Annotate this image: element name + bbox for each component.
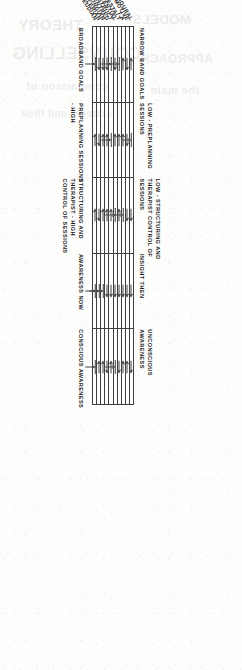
comparison-matrix-figure: NARROW BAND GOALSLOW - PREPLANNING SESSI… bbox=[5, 14, 237, 656]
row-labels: BEHAVIOURALRATIONAL-EMOTIVET.AGESTALTEXI… bbox=[5, 14, 237, 656]
